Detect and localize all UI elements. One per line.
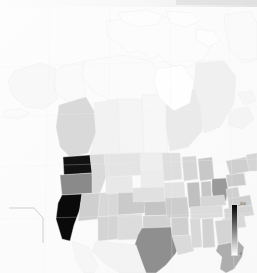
region-minnesota[interactable] (162, 153, 182, 181)
region-arkansas[interactable] (171, 217, 189, 236)
region-alabama[interactable] (202, 218, 215, 248)
color-scale-legend[interactable]: 450 0 (231, 202, 257, 260)
legend-max-label: 450 (240, 202, 246, 206)
map-canvas[interactable] (0, 7, 257, 273)
region-saskatchewan[interactable] (118, 99, 144, 153)
region-utah[interactable] (98, 192, 118, 217)
region-wyoming[interactable] (106, 176, 133, 194)
region-kansas[interactable] (144, 201, 169, 216)
region-arizona[interactable] (98, 215, 118, 241)
region-manitoba[interactable] (142, 95, 168, 153)
region-south-dakota[interactable] (141, 170, 164, 188)
region-iowa[interactable] (164, 182, 185, 198)
legend-min-label: 0 (240, 252, 242, 256)
top-chrome-strip-right (176, 0, 257, 5)
region-mississippi[interactable] (190, 218, 202, 248)
region-wisconsin[interactable] (182, 156, 198, 181)
region-tennessee[interactable] (190, 205, 223, 219)
region-pennsylvania[interactable] (226, 173, 246, 187)
north-america-map[interactable] (0, 7, 257, 273)
region-montana[interactable] (104, 153, 141, 177)
region-kentucky[interactable] (200, 195, 226, 207)
legend-gradient-bar[interactable] (231, 204, 238, 256)
region-nebraska[interactable] (133, 187, 165, 202)
region-illinois[interactable] (187, 182, 201, 208)
region-british-columbia[interactable] (56, 97, 96, 157)
map-application-window: 450 0 (0, 0, 257, 273)
region-oregon[interactable] (60, 173, 94, 195)
